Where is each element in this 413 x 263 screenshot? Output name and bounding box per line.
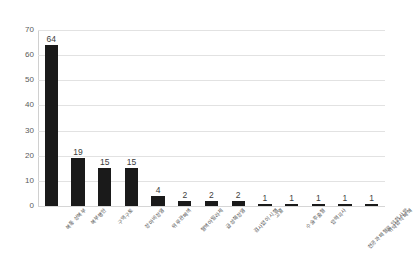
y-tick-label: 50 [0,76,34,84]
y-tick-label: 40 [0,101,34,109]
y-tick-label: 20 [0,152,34,160]
x-category-label: 복통 상복부 [65,208,88,231]
y-axis-tick-labels: 706050403020100 [0,30,34,206]
y-tick-label: 70 [0,26,34,34]
bar [258,204,271,207]
bar-value-label: 19 [58,148,98,157]
x-category-label: 수술후출혈 [305,208,327,230]
bar [205,201,218,206]
bar [151,196,164,206]
x-category-label: 구역구토 [117,208,135,226]
bar-series: 64191515422211111 [38,30,385,206]
bar-slot: 15 [98,30,111,206]
x-category-label: 위루관폐색 [171,208,193,230]
bar [178,201,191,206]
bar-slot: 19 [71,30,84,206]
x-axis-category-labels: 복통 상복부복부팽만구역구토장마비장염위루관폐색혈액아밀라제급성췌장염검사없이 … [38,208,385,263]
x-category-label: 장마비장염 [145,208,167,230]
bar-slot: 15 [125,30,138,206]
bar-value-label: 15 [111,158,151,167]
bar-slot: 1 [258,30,271,206]
bar [232,201,245,206]
x-category-label: 복부팽만 [90,208,108,226]
bar-value-label: 64 [31,35,71,44]
y-tick-label: 60 [0,51,34,59]
bar-value-label: 1 [352,194,392,203]
bar-slot: 2 [205,30,218,206]
bar [45,45,58,206]
x-category-label: 혈액아밀라제 [200,208,225,233]
bar [98,168,111,206]
bar-slot: 2 [178,30,191,206]
bar-slot: 1 [312,30,325,206]
x-category-label: 압력괴사 [330,208,348,226]
bar-slot: 2 [232,30,245,206]
y-tick-label: 0 [0,202,34,210]
bar [338,204,351,207]
x-category-label: 급성췌장염 [225,208,247,230]
bar-slot: 1 [365,30,378,206]
bar [71,158,84,206]
gridline-0 [38,206,385,207]
bar-slot: 64 [45,30,58,206]
bar [312,204,325,207]
bar-slot: 1 [285,30,298,206]
bar-slot: 4 [151,30,164,206]
y-tick-label: 10 [0,177,34,185]
bar [285,204,298,207]
y-tick-label: 30 [0,127,34,135]
bar [365,204,378,207]
bar-slot: 1 [338,30,351,206]
bar [125,168,138,206]
